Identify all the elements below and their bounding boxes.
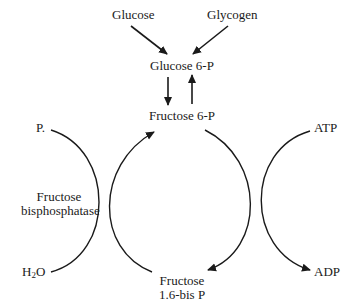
fructose-6p-label: Fructose 6-P	[149, 109, 215, 123]
enzyme-label: Fructose bisphosphatase	[21, 190, 97, 218]
fructose-16-bisp-line1: Fructose	[152, 274, 212, 288]
fructose-16-bisp-label: Fructose 1.6-bis P	[152, 274, 212, 302]
glucose-label: Glucose	[112, 8, 155, 22]
h2o-label: H2O	[22, 265, 45, 279]
pathway-arrows	[0, 0, 346, 302]
enzyme-label-line2: bisphosphatase	[21, 204, 97, 218]
glucose-arrow	[131, 26, 167, 54]
pi-label: P.	[36, 121, 45, 135]
atp-adp-arc	[261, 131, 310, 270]
enzyme-label-line1: Fructose	[21, 190, 97, 204]
h2o-o: O	[36, 264, 45, 279]
pfk-arc	[205, 130, 250, 270]
adp-label: ADP	[314, 265, 340, 279]
glycogen-arrow	[193, 26, 228, 54]
h2o-h: H	[22, 264, 31, 279]
fbpase-arc	[109, 132, 154, 272]
glycogen-label: Glycogen	[207, 8, 258, 22]
glucose-6p-label: Glucose 6-P	[150, 59, 214, 73]
atp-label: ATP	[314, 121, 337, 135]
fructose-16-bisp-line2: 1.6-bis P	[152, 288, 212, 302]
